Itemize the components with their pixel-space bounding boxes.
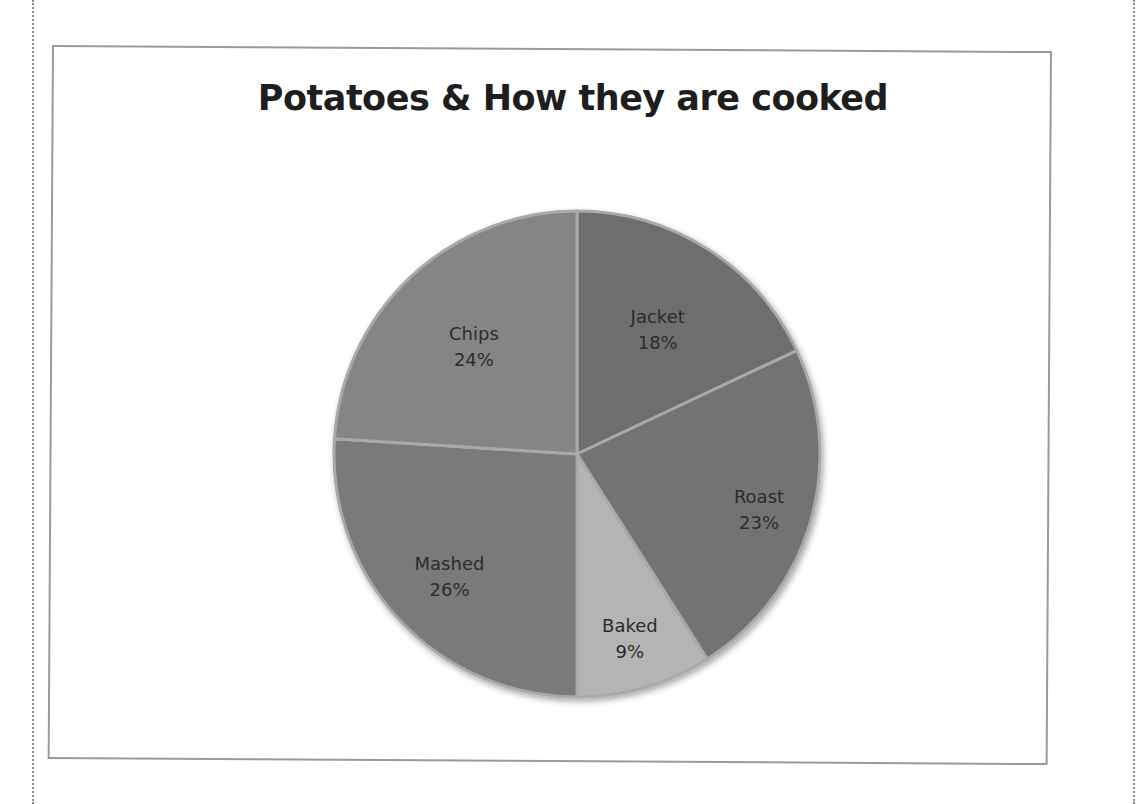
pie-slices bbox=[334, 211, 820, 697]
pie-chart: Jacket18%Roast23%Baked9%Mashed26%Chips24… bbox=[0, 0, 1146, 804]
